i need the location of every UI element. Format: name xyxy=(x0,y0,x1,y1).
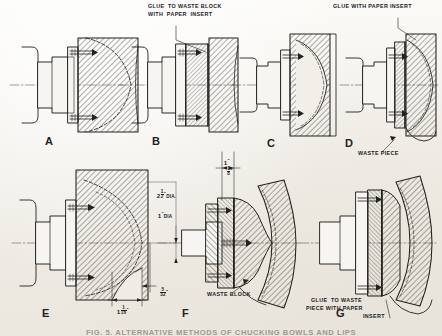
annotation-waste-block: WASTE BLOCK xyxy=(207,291,251,297)
figure-letter-g: G xyxy=(336,307,345,319)
faceplate-c xyxy=(281,50,290,120)
leader-glue-waste-piece xyxy=(386,300,390,318)
waste-piece-g xyxy=(368,190,382,296)
figure-letter-b: B xyxy=(152,135,160,147)
figure-plate: GLUE TO WASTE BLOCK WITH PAPER INSERT GL… xyxy=(0,0,442,336)
figure-e-drawing xyxy=(12,170,156,306)
dim-den: 16 xyxy=(121,311,127,315)
faceplate-e xyxy=(66,200,76,286)
lip-body-f xyxy=(234,198,272,288)
faceplate-b xyxy=(176,44,186,126)
waste-block-b xyxy=(186,44,208,126)
annotation-glue-waste-piece-line3: INSERT xyxy=(363,313,385,319)
technical-drawing xyxy=(0,0,442,336)
dim-den: 32 xyxy=(160,293,166,297)
dimension-5-32: 532" xyxy=(156,281,168,297)
dim-unit: " xyxy=(127,306,129,311)
annotation-glue-waste-piece-line2: PIECE WITH PAPER xyxy=(306,305,363,311)
figure-c-drawing xyxy=(232,34,336,136)
figure-letter-a: A xyxy=(45,135,53,147)
annotation-glue-waste-block-line2: WITH PAPER INSERT xyxy=(148,11,212,17)
dimension-1-1-16: 1116" xyxy=(113,299,129,315)
dim-den: 2 xyxy=(161,195,164,199)
faceplate-d xyxy=(387,48,395,122)
figure-letter-e: E xyxy=(42,307,50,319)
dim-unit: " xyxy=(166,288,168,293)
faceplate-g xyxy=(356,192,368,294)
figure-letter-f: F xyxy=(182,307,189,319)
figure-a-drawing xyxy=(10,38,138,132)
annotation-glue-paper-insert: GLUE WITH PAPER INSERT xyxy=(333,3,412,9)
figure-letter-c: C xyxy=(267,137,275,149)
annotation-glue-waste-block-line1: GLUE TO WASTE BLOCK xyxy=(148,3,222,9)
dimension-2-1-2-dia: 212"DIA. xyxy=(153,183,176,199)
figure-d-drawing xyxy=(340,18,438,152)
annotation-waste-piece: WASTE PIECE xyxy=(358,150,399,156)
dim-suffix: DIA xyxy=(164,214,173,219)
dim-den: 8 xyxy=(227,172,230,176)
dim-suffix: DIA. xyxy=(166,194,176,199)
figure-letter-d: D xyxy=(345,137,353,149)
spindle-nose-e xyxy=(36,216,66,270)
plate-caption: FIG. 5. ALTERNATIVE METHODS OF CHUCKING … xyxy=(0,328,442,336)
lip-body-g xyxy=(382,190,400,296)
spindle-nose-d xyxy=(363,62,387,108)
spindle-nose-c xyxy=(257,62,281,108)
faceplate-a xyxy=(68,47,78,123)
annotation-glue-waste-piece-line1: GLUE TO WASTE xyxy=(311,297,362,303)
spindle-nose-g xyxy=(320,216,356,270)
dimension-1-dia: 1"DIA xyxy=(154,205,172,220)
dim-unit: " xyxy=(230,167,232,172)
dimension-1-8: 18" xyxy=(223,160,233,176)
faceplate-f xyxy=(206,204,218,282)
spindle-nose-a xyxy=(38,57,68,113)
